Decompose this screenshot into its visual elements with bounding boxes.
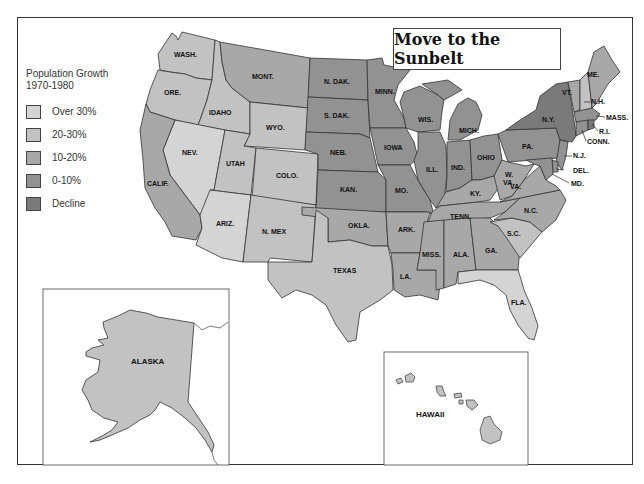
label-kansas: KAN. xyxy=(340,186,357,193)
legend-item-0-10: 0-10% xyxy=(26,169,108,192)
label-montana: MONT. xyxy=(252,73,274,80)
label-missouri: MO. xyxy=(395,187,408,194)
label-wyoming: WYO. xyxy=(266,124,285,131)
label-alabama: ALA. xyxy=(453,251,469,258)
state-connecticut xyxy=(576,120,588,136)
label-tennessee: TENN. xyxy=(450,213,471,220)
label-hawaii: HAWAII xyxy=(416,410,444,419)
label-louisiana: LA. xyxy=(400,273,411,280)
label-illinois: ILL. xyxy=(426,166,438,173)
label-idaho: IDAHO xyxy=(209,109,232,116)
label-michigan: MICH. xyxy=(459,127,479,134)
legend-swatch xyxy=(26,174,41,188)
label-rhode-island: R.I. xyxy=(599,128,610,135)
label-indiana: IND. xyxy=(451,164,465,171)
legend-label: Decline xyxy=(52,198,85,209)
label-nebraska: NEB. xyxy=(330,149,347,156)
legend-label: 20-30% xyxy=(52,129,86,140)
label-colorado: COLO. xyxy=(276,172,298,179)
label-new-york: N.Y. xyxy=(542,116,555,123)
label-florida: FLA. xyxy=(511,299,527,306)
label-california: CALIF. xyxy=(147,180,169,187)
legend-title-line1: Population Growth xyxy=(26,68,108,80)
legend-swatch xyxy=(26,128,41,142)
label-wisconsin: WIS. xyxy=(418,116,433,123)
label-georgia: GA. xyxy=(485,247,498,254)
map-title: Move to the Sunbelt xyxy=(394,30,560,68)
legend-label: Over 30% xyxy=(52,106,96,117)
legend-swatch xyxy=(26,197,41,211)
legend-label: 10-20% xyxy=(52,152,86,163)
label-massachusetts: MASS. xyxy=(606,114,628,121)
label-south-carolina: S.C. xyxy=(507,230,521,237)
label-iowa: IOWA xyxy=(384,144,403,151)
label-new-jersey: N.J. xyxy=(573,152,586,159)
label-arizona: ARIZ. xyxy=(216,220,234,227)
label-maryland: MD. xyxy=(571,180,584,187)
label-alaska: ALASKA xyxy=(131,357,165,366)
label-nevada: NEV. xyxy=(182,149,198,156)
legend-item-10-20: 10-20% xyxy=(26,146,108,169)
label-ohio: OHIO xyxy=(477,154,495,161)
label-maine: ME. xyxy=(587,71,600,78)
legend-item-20-30: 20-30% xyxy=(26,123,108,146)
label-arkansas: ARK. xyxy=(398,226,415,233)
label-new-hampshire: N.H. xyxy=(591,98,605,105)
label-west-virginia-2: VA. xyxy=(503,179,514,186)
label-connecticut: CONN. xyxy=(587,138,610,145)
legend-title-line2: 1970-1980 xyxy=(26,80,108,92)
legend-title: Population Growth 1970-1980 xyxy=(26,68,108,92)
map-title-box: Move to the Sunbelt xyxy=(393,28,561,70)
label-texas: TEXAS xyxy=(333,267,357,274)
legend-label: 0-10% xyxy=(52,175,81,186)
label-minnesota: MINN. xyxy=(375,88,395,95)
label-utah: UTAH xyxy=(226,160,245,167)
label-north-dakota: N. DAK. xyxy=(324,78,350,85)
label-delaware: DEL. xyxy=(573,167,589,174)
island-lanai xyxy=(459,400,463,404)
label-new-mexico: N. MEX xyxy=(262,228,286,235)
label-mississippi: MISS. xyxy=(422,251,441,258)
label-oregon: ORE. xyxy=(164,89,181,96)
label-north-carolina: N.C. xyxy=(524,207,538,214)
legend-item-decline: Decline xyxy=(26,192,108,215)
label-oklahoma: OKLA. xyxy=(348,222,370,229)
legend-item-over-30: Over 30% xyxy=(26,100,108,123)
label-washington: WASH. xyxy=(174,51,197,58)
label-south-dakota: S. DAK. xyxy=(324,112,350,119)
legend-swatch xyxy=(26,105,41,119)
label-west-virginia-1: W. xyxy=(505,171,513,178)
legend: Population Growth 1970-1980 Over 30% 20-… xyxy=(26,68,108,215)
label-vermont: VT. xyxy=(562,89,572,96)
island-molokai xyxy=(454,393,462,398)
hawaii-inset xyxy=(384,352,528,465)
label-kentucky: KY. xyxy=(470,190,481,197)
label-pennsylvania: PA. xyxy=(522,143,533,150)
legend-swatch xyxy=(26,151,41,165)
